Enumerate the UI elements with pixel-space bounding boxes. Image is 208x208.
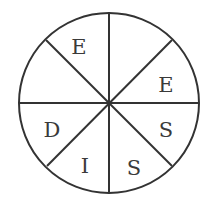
section-label-s2: S xyxy=(127,156,141,180)
spinner-diagram: E E S S I D xyxy=(0,0,208,208)
section-label-d: D xyxy=(44,118,61,142)
section-label-e1: E xyxy=(71,35,86,59)
section-label-s1: S xyxy=(159,118,173,142)
section-label-i: I xyxy=(81,154,89,178)
section-label-e2: E xyxy=(158,73,173,97)
